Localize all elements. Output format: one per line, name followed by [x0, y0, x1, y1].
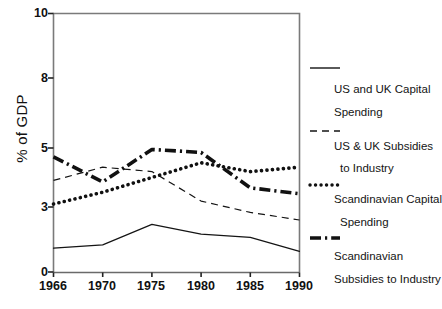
- x-tick-label-1975: 1975: [124, 280, 178, 293]
- legend-entry-1-line1: US & UK Subsidies: [334, 141, 433, 153]
- y-tick-label-10: 10: [22, 7, 48, 20]
- legend-entry-1-line2: to Industry: [340, 163, 394, 175]
- y-axis-title: % of GDP: [13, 74, 30, 184]
- y-tick-label-5: 5: [22, 142, 48, 155]
- legend-entry-3-line2: Subsidies to Industry: [334, 274, 441, 286]
- x-tick-label-1980: 1980: [174, 280, 228, 293]
- x-tick-label-1990: 1990: [272, 280, 326, 293]
- legend-entry-0-line1: US and UK Capital: [334, 84, 431, 96]
- x-tick-label-1970: 1970: [75, 280, 129, 293]
- series-us-uk-subsidies-to-industry: [54, 167, 300, 220]
- x-tick-label-1966: 1966: [26, 280, 80, 293]
- plot-frame: [54, 14, 300, 273]
- legend-entry-0-line2: Spending: [334, 107, 383, 119]
- y-tick-label-0: 0: [22, 266, 48, 279]
- x-tick-marks: [54, 273, 300, 278]
- series-us-uk-capital-spending: [54, 224, 300, 251]
- y-tick-marks: [48, 14, 54, 273]
- legend-entry-2-line2: Spending: [340, 217, 389, 229]
- series-scandinavian-capital-spending: [54, 163, 300, 204]
- y-tick-label-3: 3: [22, 201, 48, 214]
- data-series-group: [54, 149, 300, 251]
- y-tick-label-8: 8: [22, 72, 48, 85]
- series-scandinavian-subsidies-to-industry: [54, 149, 300, 193]
- legend-entry-3-line1: Scandinavian: [334, 251, 403, 263]
- x-tick-label-1985: 1985: [223, 280, 277, 293]
- legend-entry-2-line1: Scandinavian Capital: [334, 194, 442, 206]
